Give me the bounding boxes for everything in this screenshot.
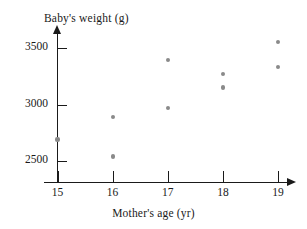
x-axis-arrow-icon [287,178,296,186]
data-point [166,58,170,62]
x-axis-tick-mark [278,171,279,182]
y-axis-tick-label: 3500 [8,40,48,52]
x-axis-tick-mark [223,171,224,182]
x-axis-title: Mother's age (yr) [0,207,307,219]
x-axis-tick-mark [168,171,169,182]
y-axis-tick-mark [58,161,67,162]
y-axis-tick-label: 3000 [8,97,48,109]
plot-area: 250030003500 1516171819 [0,0,307,229]
x-axis-tick-label: 17 [153,186,183,198]
x-axis-tick-mark [58,171,59,182]
y-axis-arrow-icon [53,25,61,34]
x-axis-line [44,182,288,183]
data-point [111,115,115,119]
data-point [276,65,280,69]
y-axis-tick-label: 2500 [8,153,48,165]
x-axis-tick-label: 15 [43,186,73,198]
data-point [55,137,59,141]
data-point [221,72,225,76]
data-point [111,154,115,158]
x-axis-tick-label: 19 [263,186,293,198]
data-point [276,40,280,44]
x-axis-tick-label: 16 [98,186,128,198]
x-axis-tick-label: 18 [208,186,238,198]
scatter-plot-figure: Baby's weight (g) 250030003500 151617181… [0,0,307,229]
y-axis-tick-mark [58,105,67,106]
data-point [221,85,225,89]
x-axis-tick-mark [113,171,114,182]
data-point [166,106,170,110]
y-axis-tick-mark [58,48,67,49]
